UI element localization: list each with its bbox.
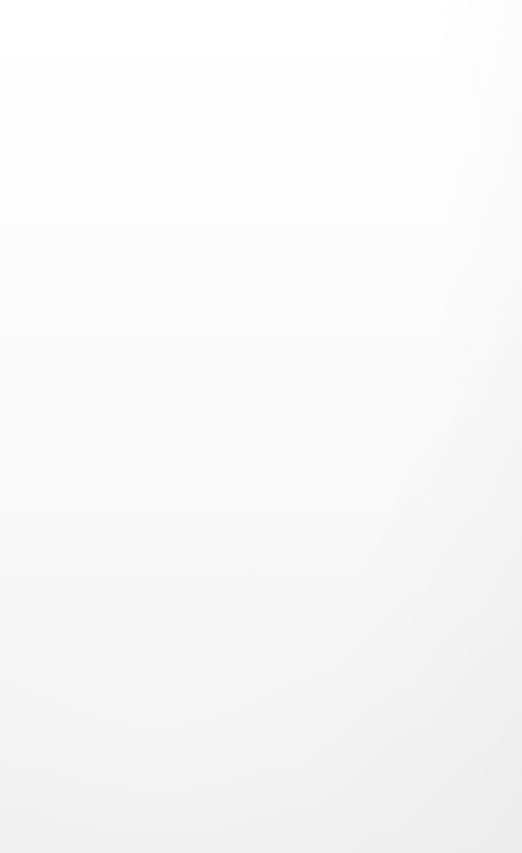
fear-label-line2: #1 — [168, 634, 183, 655]
arrow-to-visual-aids — [258, 462, 316, 504]
subbranch-entertain[interactable]: ENTERTAIN ? — [46, 474, 70, 690]
map-label: MAP — [284, 658, 299, 692]
branch-equipment[interactable]: EQUIPMENT BEST USE DISADVANTAGES ADVANTA… — [345, 318, 494, 485]
branch-purpose[interactable]: PURPOSE INFORM ? ENTERTAIN ? MOTIVATE ? — [24, 421, 127, 690]
branch-label-memory: MEMORY — [135, 247, 151, 318]
compass-label-north: N — [270, 671, 284, 682]
group-beginning-end: BEGINNING END — [291, 66, 375, 186]
compass-label-south: S — [325, 669, 339, 678]
big-idea-box[interactable]: BIG IDEA — [385, 548, 417, 658]
fear-label-line1: FEAR — [150, 625, 165, 665]
subbranch-label-motivate: MOTIVATE ? — [72, 602, 87, 690]
center-topic-box[interactable]: PRESENTATION — [126, 385, 253, 548]
branch-label-equipment: EQUIPMENT — [345, 385, 360, 477]
branch-memory[interactable]: MEMORY INVOLVEMENT INTENSITY AS — [127, 103, 303, 350]
branch-images[interactable]: IMAGES — [296, 541, 320, 607]
branch-label-pace: PACE — [313, 230, 349, 270]
subbranch-label-inform: INFORM ? — [24, 599, 39, 672]
map-box[interactable]: MAP N S E — [253, 613, 360, 730]
subbranch-label-group: GROUP — [327, 427, 341, 478]
subbranch-disadvantages[interactable]: DISADVANTAGES — [363, 326, 492, 436]
fear-starburst[interactable]: FEAR #1 — [137, 548, 211, 665]
mind-map-drawing: MEMORY INVOLVEMENT INTENSITY AS — [0, 0, 522, 853]
branch-label-color: COLOR — [276, 749, 291, 800]
label-end: END — [328, 87, 343, 118]
subbranch-motivate[interactable]: MOTIVATE ? — [72, 474, 96, 690]
subbranch-label-entertain: ENTERTAIN ? — [46, 594, 61, 690]
screenshot-canvas: MEMORY INVOLVEMENT INTENSITY AS — [0, 0, 522, 853]
branch-color[interactable]: COLOR — [276, 728, 298, 808]
compass-label-west: W — [284, 698, 298, 712]
subbranch-repetition[interactable]: REPETITION — [195, 103, 303, 191]
arrow-to-big-idea — [360, 654, 404, 700]
big-idea-label: BIG IDEA — [394, 573, 412, 652]
idea-cloud-icon — [344, 78, 370, 134]
branch-label-images: IMAGES — [296, 549, 311, 607]
center-topic-label: PRESENTATION — [135, 418, 151, 544]
compass-label-east: E — [292, 629, 306, 638]
